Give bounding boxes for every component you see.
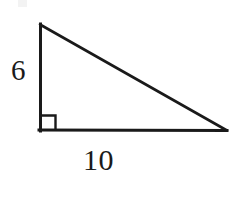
horizontal-leg-label: 10 <box>83 145 114 175</box>
triangle-outline <box>39 24 227 131</box>
vertical-leg-label: 6 <box>11 56 26 85</box>
right-angle-marker-icon <box>41 116 56 130</box>
right-triangle-figure <box>0 0 235 201</box>
hypotenuse-line <box>40 25 227 131</box>
horizontal-leg-line <box>39 130 227 131</box>
figure-canvas: 6 10 <box>0 0 235 201</box>
